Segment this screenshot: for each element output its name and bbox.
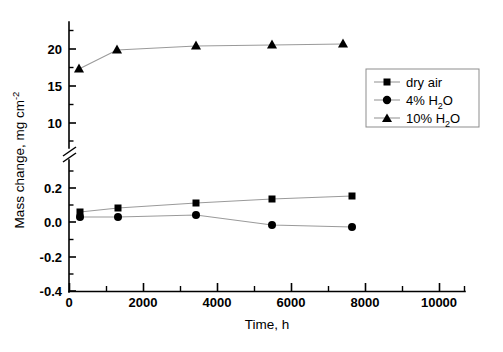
data-point-triangle <box>112 45 122 54</box>
y-axis-title: Mass change, mg cm-2 <box>10 92 27 229</box>
legend-square-icon <box>384 79 391 86</box>
data-point-circle <box>268 221 276 229</box>
legend-label-dry-air: dry air <box>406 75 443 90</box>
y-ticks-lower <box>69 171 76 291</box>
y-axis-title-superscript: -2 <box>10 92 21 100</box>
legend-label-4pct-h2o: 4% H <box>406 93 438 108</box>
legend-label-10pct-h2o-suffix: O <box>450 111 460 126</box>
data-point-triangle <box>191 41 201 50</box>
figure-caption <box>0 343 503 352</box>
data-point-circle <box>76 213 84 221</box>
y-tick-labels-lower: 0.2 0.0 -0.2 -0.4 <box>40 181 63 299</box>
axes-group <box>69 22 465 292</box>
data-point-square <box>349 193 356 200</box>
data-point-square <box>115 205 122 212</box>
x-tick-label-0: 0 <box>65 295 72 310</box>
data-point-triangle <box>74 64 84 73</box>
series-10pct-h2o <box>74 39 348 73</box>
data-point-triangle <box>338 39 348 48</box>
y-axis-title-main: Mass change, mg cm <box>12 100 27 228</box>
x-axis-title: Time, h <box>245 317 290 332</box>
x-tick-labels: 0 2000 4000 6000 8000 10000 <box>65 295 457 310</box>
y-ticks-upper <box>69 31 76 142</box>
y-tick-labels-upper: 20 15 10 <box>48 42 62 131</box>
y-tick-label-neg0p4: -0.4 <box>40 284 63 299</box>
y-tick-label-20: 20 <box>48 42 62 57</box>
x-tick-label-6000: 6000 <box>277 295 306 310</box>
y-tick-label-10: 10 <box>48 116 62 131</box>
data-point-square <box>193 200 200 207</box>
svg-text:Mass change, mg cm-2: Mass change, mg cm-2 <box>10 92 27 229</box>
y-tick-label-15: 15 <box>48 79 62 94</box>
x-tick-label-8000: 8000 <box>351 295 380 310</box>
data-point-circle <box>114 213 122 221</box>
y-tick-label-0p0: 0.0 <box>44 215 62 230</box>
legend-circle-icon <box>383 96 391 104</box>
legend-label-4pct-h2o-suffix: O <box>443 93 453 108</box>
y-tick-label-0p2: 0.2 <box>44 181 62 196</box>
series-dry-air <box>77 193 356 216</box>
legend-label-10pct-h2o: 10% H <box>406 111 445 126</box>
figure-root: 20 15 10 0.2 0.0 -0.2 -0.4 0 2000 4000 6… <box>0 0 503 352</box>
x-tick-label-10000: 10000 <box>421 295 457 310</box>
data-point-circle <box>192 211 200 219</box>
data-point-triangle <box>267 40 277 49</box>
x-tick-label-4000: 4000 <box>203 295 232 310</box>
data-point-square <box>269 196 276 203</box>
chart-legend[interactable]: dry air 4% H2O 10% H2O <box>366 69 479 129</box>
x-ticks <box>70 283 465 291</box>
y-tick-label-neg0p2: -0.2 <box>40 250 62 265</box>
series-4pct-h2o <box>76 211 356 231</box>
x-tick-label-2000: 2000 <box>129 295 158 310</box>
mass-change-chart: 20 15 10 0.2 0.0 -0.2 -0.4 0 2000 4000 6… <box>0 0 503 352</box>
data-point-circle <box>348 223 356 231</box>
